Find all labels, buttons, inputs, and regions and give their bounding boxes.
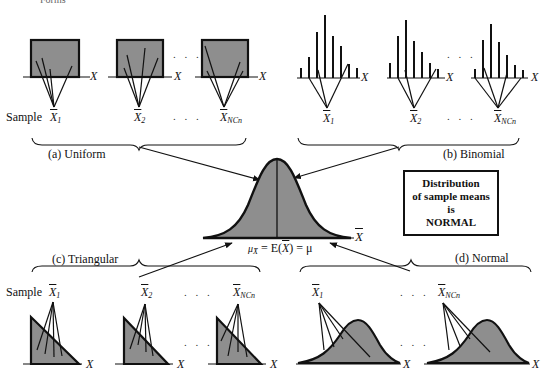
callout-line-3: is [447,203,454,216]
axis-label-x: X [90,69,97,84]
sample-mean-label-n: XNCn [438,285,460,300]
axis-label-x: X [446,70,453,85]
callout-line-2: of sample means [412,190,490,203]
sample-mean-label-2: X2 [141,285,152,300]
axis-label-x: X [531,70,538,85]
sample-mean-label-1: X1 [50,110,61,125]
axis-label-x: X [174,69,181,84]
uniform-distributions [31,40,248,77]
group-label-uniform: (a) Uniform [48,147,106,162]
ellipsis: . . . [173,48,202,60]
ellipsis: . . . [447,110,476,122]
sample-mean-label-1: X1 [323,111,334,126]
axis-label-x: X [532,357,539,372]
axis-label-x: X [270,357,277,372]
group-label-triangular: (c) Triangular [52,252,118,267]
sample-mean-label-n: XNCn [233,285,255,300]
binomial-distributions [301,15,523,78]
sample-mean-label-n: XNCn [220,110,242,125]
ellipsis: . . . [173,110,202,122]
ellipsis: . . . [400,336,429,348]
sample-mean-label-2: X2 [134,110,145,125]
central-axis-label: X [355,229,363,245]
ellipsis: . . . [447,48,476,60]
group-label-normal: (d) Normal [455,251,509,266]
mean-equation: μX̄ = E(X) = μ [248,241,313,256]
callout-line-1: Distribution [422,177,479,190]
sample-mean-label-n: XNCn [494,111,516,126]
group-label-binomial: (b) Binomial [443,147,505,162]
ellipsis: . . . [400,286,429,298]
axis-label-x: X [86,357,93,372]
sample-prefix: Sample [6,285,42,300]
axis-label-x: X [259,69,266,84]
ellipsis: . . . [184,336,213,348]
axis-label-x: X [361,70,368,85]
sample-mean-label-1: X1 [312,285,323,300]
sample-mean-label-2: X2 [410,111,421,126]
axis-label-x: X [177,357,184,372]
callout-line-4: NORMAL [426,216,476,229]
axis-label-x: X [403,357,410,372]
callout-box: Distribution of sample means is NORMAL [403,170,499,236]
sample-prefix: Sample [6,110,42,125]
sample-mean-label-1: X1 [49,285,60,300]
ellipsis: . . . [184,286,213,298]
